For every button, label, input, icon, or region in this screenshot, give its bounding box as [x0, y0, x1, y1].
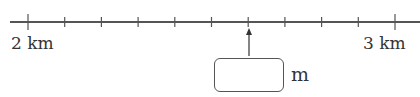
arrow-icon — [246, 28, 252, 56]
end-label: 3 km — [363, 35, 406, 52]
answer-box[interactable] — [214, 58, 284, 92]
start-label: 2 km — [11, 35, 54, 52]
unit-label: m — [291, 66, 309, 83]
number-line — [0, 0, 420, 97]
